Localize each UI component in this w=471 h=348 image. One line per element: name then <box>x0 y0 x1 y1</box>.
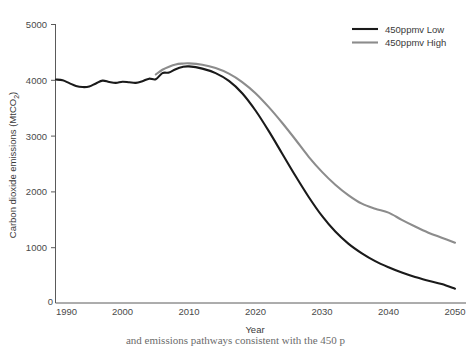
y-axis-title-tail: ) <box>7 92 18 95</box>
series-line-450ppmv-low <box>56 66 455 288</box>
y-axis-title-main: Carbon dioxide emissions (MtCO <box>7 99 18 238</box>
x-tick-label-2040: 2040 <box>378 306 399 317</box>
series-line-450ppmv-high <box>156 63 455 242</box>
y-axis-title: Carbon dioxide emissions (MtCO2) <box>7 92 20 238</box>
x-tick-label-1990: 1990 <box>56 306 77 317</box>
chart-legend: 450ppmv Low 450ppmv High <box>352 24 446 49</box>
y-axis-ticks <box>51 25 56 248</box>
x-tick-label-2000: 2000 <box>112 306 133 317</box>
svg-text:Carbon dioxide emissions (MtCO: Carbon dioxide emissions (MtCO2) <box>7 92 20 238</box>
page-body-text-fragment: and emissions pathways consistent with t… <box>0 334 471 348</box>
x-tick-label-2020: 2020 <box>245 306 266 317</box>
y-tick-label-3000: 3000 <box>26 131 47 142</box>
y-tick-label-4000: 4000 <box>26 75 47 86</box>
legend-label-450ppmv-low: 450ppmv Low <box>385 24 444 35</box>
legend-label-450ppmv-high: 450ppmv High <box>385 37 446 48</box>
y-tick-label-5000: 5000 <box>26 19 47 30</box>
x-tick-label-2010: 2010 <box>178 306 199 317</box>
x-tick-label-2030: 2030 <box>311 306 332 317</box>
y-tick-label-0: 0 <box>48 296 53 307</box>
y-tick-label-1000: 1000 <box>26 242 47 253</box>
y-tick-label-2000: 2000 <box>26 186 47 197</box>
x-tick-label-2050: 2050 <box>444 306 465 317</box>
